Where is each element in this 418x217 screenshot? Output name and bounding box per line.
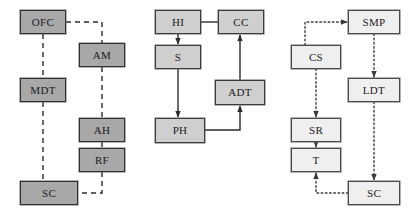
edge-ofc-am: [66, 22, 102, 43]
node-am[interactable]: AM: [79, 43, 125, 67]
node-hi[interactable]: HI: [155, 10, 201, 34]
node-sc-left[interactable]: SC: [20, 181, 78, 205]
node-ofc[interactable]: OFC: [20, 10, 66, 34]
edge-sc-t: [316, 173, 348, 193]
flow-diagram: OFC AM MDT AH RF SC HI CC S ADT PH SMP C…: [0, 0, 418, 217]
node-cc[interactable]: CC: [218, 10, 264, 34]
node-cs[interactable]: CS: [291, 45, 341, 69]
node-ph[interactable]: PH: [155, 118, 205, 143]
node-adt[interactable]: ADT: [215, 80, 265, 105]
node-t[interactable]: T: [291, 148, 341, 172]
edge-ph-adt: [205, 106, 240, 130]
edges-middle: [178, 22, 240, 130]
node-smp[interactable]: SMP: [348, 10, 400, 34]
node-ldt[interactable]: LDT: [348, 78, 400, 102]
edge-cs-smp: [305, 22, 347, 45]
node-sc-right[interactable]: SC: [348, 181, 400, 205]
edge-rf-sc: [78, 172, 102, 193]
node-mdt[interactable]: MDT: [20, 78, 66, 102]
node-ah[interactable]: AH: [79, 118, 125, 142]
node-sr[interactable]: SR: [291, 118, 341, 142]
node-rf[interactable]: RF: [79, 148, 125, 172]
node-s[interactable]: S: [155, 45, 201, 69]
